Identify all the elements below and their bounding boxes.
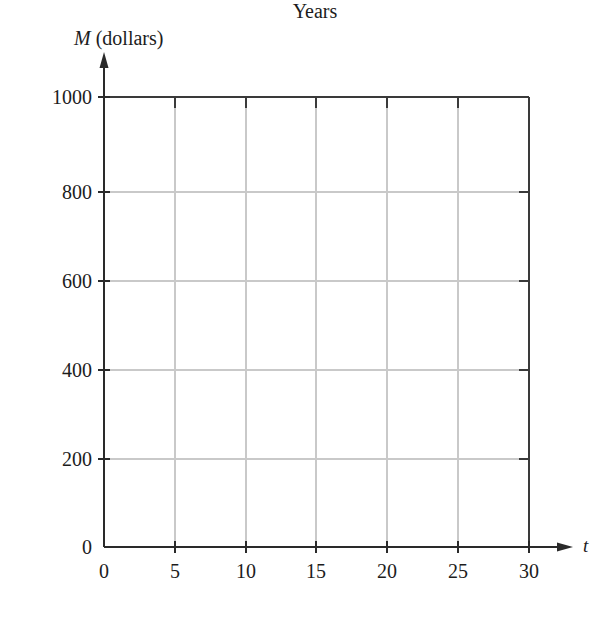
x-tick-label-25: 25 <box>428 561 488 581</box>
right-border-ticks <box>519 192 529 459</box>
x-tick-label-5: 5 <box>145 561 205 581</box>
x-axis-variable: t <box>583 536 588 555</box>
y-tick-label-1000: 1000 <box>18 87 92 107</box>
y-tick-label-400: 400 <box>18 360 92 380</box>
y-tick-label-600: 600 <box>18 271 92 291</box>
x-tick-label-15: 15 <box>286 561 346 581</box>
y-axis-variable: M <box>74 27 91 49</box>
coordinate-grid-figure: M (dollars) 1000 800 600 400 200 0 0 5 1… <box>0 0 614 640</box>
y-tick-label-200: 200 <box>18 449 92 469</box>
y-axis-title: M (dollars) <box>74 28 163 48</box>
x-tick-label-20: 20 <box>357 561 417 581</box>
x-tick-label-0: 0 <box>74 561 134 581</box>
y-tick-label-800: 800 <box>18 182 92 202</box>
plot-canvas <box>0 0 614 640</box>
vertical-gridlines <box>175 97 458 547</box>
y-axis-unit: (dollars) <box>91 27 164 49</box>
top-border-ticks <box>175 97 458 108</box>
x-tick-label-10: 10 <box>216 561 276 581</box>
y-axis-arrowhead <box>100 52 109 68</box>
x-axis-arrowhead <box>557 543 573 552</box>
x-tick-label-30: 30 <box>499 561 559 581</box>
y-tick-label-0: 0 <box>18 537 92 557</box>
